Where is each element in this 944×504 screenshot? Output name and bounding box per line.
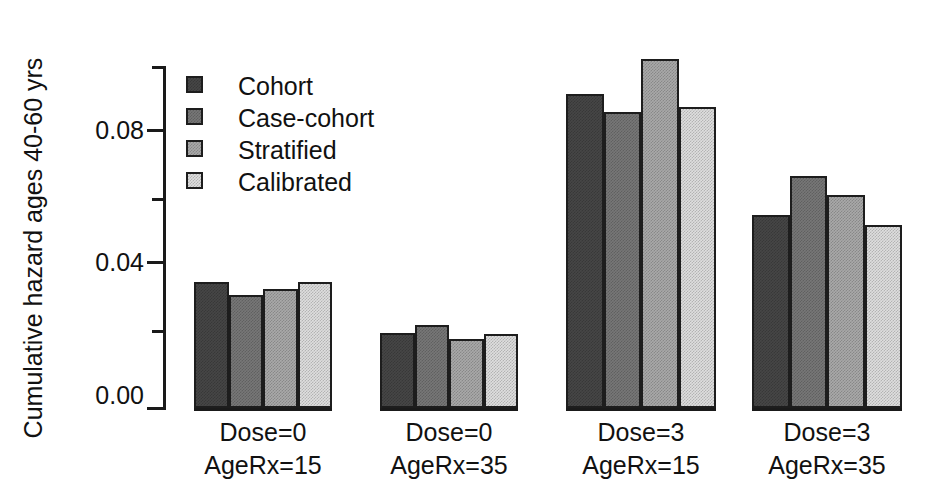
y-axis-tick-labels: 0.08 0.04 0.00 [0,0,144,504]
bar-dose-3-agerx-35-stratified [827,195,865,408]
bar-dose-0-agerx-35-cohort [380,333,415,408]
bar-dose-0-agerx-15-stratified [263,289,298,408]
x-axis-rule-group-2 [380,408,518,411]
y-axis-top-cap [152,66,166,69]
x-axis-label-group-1-line-1: Dose=0 [194,416,332,449]
y-axis-tick-0.00 [147,407,166,410]
y-axis-tick-0.08 [147,129,166,132]
bar-dose-3-agerx-15-case-cohort [604,112,642,408]
x-axis-label-group-4-line-2: AgeRx=35 [752,449,902,482]
legend-swatch-stratified-icon [186,140,203,157]
x-axis-label-group-1-line-2: AgeRx=15 [194,449,332,482]
y-axis-tick-0.04 [147,261,166,264]
bar-dose-3-agerx-15-cohort [566,94,604,408]
legend-swatch-case-cohort-icon [186,108,203,125]
x-axis-label-group-4: Dose=3 AgeRx=35 [752,416,902,482]
y-axis-tick-0.02 [152,330,166,333]
bar-dose-3-agerx-35-cohort [752,215,790,408]
legend-label-calibrated: Calibrated [238,166,352,198]
legend-swatch-calibrated-icon [186,172,203,189]
y-tick-label-0.08: 0.08 [34,118,144,143]
x-axis-rule-group-3 [566,408,716,411]
y-axis-tick-0.06 [152,198,166,201]
x-axis-rule-group-4 [752,408,902,411]
bar-dose-0-agerx-15-case-cohort [229,295,264,408]
bar-dose-3-agerx-15-calibrated [679,107,717,408]
y-tick-label-0.00: 0.00 [34,383,144,408]
legend-swatch-cohort-icon [186,76,203,93]
x-axis-label-group-3: Dose=3 AgeRx=15 [566,416,716,482]
bar-dose-0-agerx-15-calibrated [298,282,333,408]
x-axis-rule-group-1 [194,408,332,411]
x-axis-label-group-2: Dose=0 AgeRx=35 [380,416,518,482]
x-axis-label-group-3-line-1: Dose=3 [566,416,716,449]
bar-dose-0-agerx-35-calibrated [484,334,519,408]
x-axis-label-group-2-line-1: Dose=0 [380,416,518,449]
bar-dose-3-agerx-15-stratified [641,59,679,408]
bar-dose-3-agerx-35-calibrated [865,225,903,408]
legend-label-stratified: Stratified [238,134,337,166]
bar-dose-0-agerx-35-stratified [449,339,484,408]
x-axis-label-group-3-line-2: AgeRx=15 [566,449,716,482]
y-tick-label-0.04: 0.04 [34,250,144,275]
bar-dose-0-agerx-35-case-cohort [415,325,450,408]
x-axis-label-group-2-line-2: AgeRx=35 [380,449,518,482]
x-axis-label-group-4-line-1: Dose=3 [752,416,902,449]
x-axis-label-group-1: Dose=0 AgeRx=15 [194,416,332,482]
legend-label-case-cohort: Case-cohort [238,102,374,134]
legend-label-cohort: Cohort [238,70,313,102]
bar-chart-figure: Cumulative hazard ages 40-60 yrs 0.08 0.… [0,0,944,504]
bar-dose-3-agerx-35-case-cohort [790,176,828,408]
bar-dose-0-agerx-15-cohort [194,282,229,408]
